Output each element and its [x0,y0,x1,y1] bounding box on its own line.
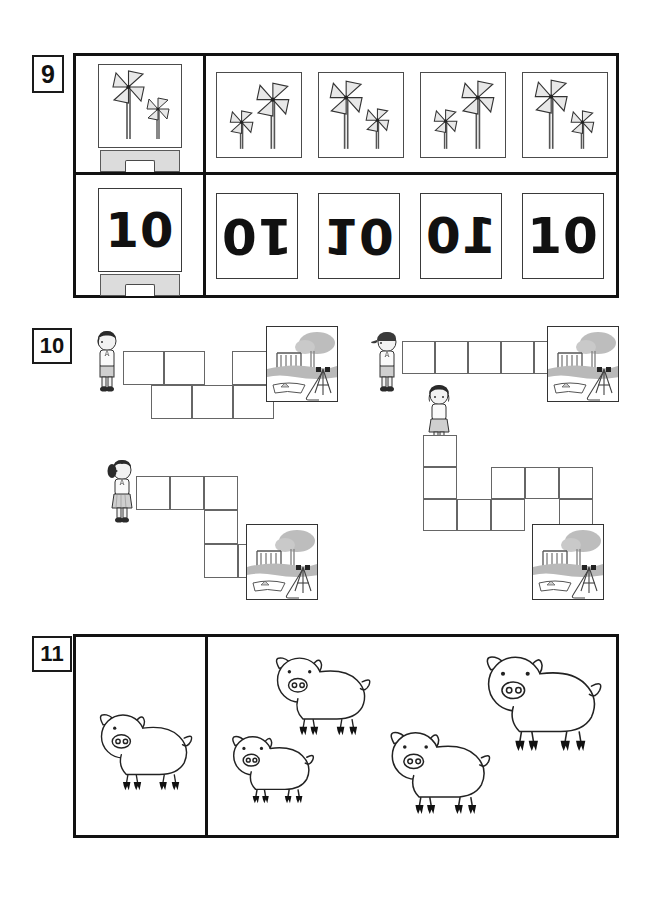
maze-a-cell [192,385,233,419]
playground-scene-icon [247,525,318,600]
exercise-11-number: 11 [32,636,72,672]
ex9-number-prompt-card: 10 [98,188,182,272]
maze-c-cell [204,476,238,510]
playground-thumb-c [246,524,318,600]
playground-scene-icon [533,525,604,600]
maze-d-cell [423,467,457,499]
maze-d-cell [491,499,525,531]
ex9-number-option-4-glyph: 10 [527,211,599,261]
maze-a-cell [151,385,192,419]
maze-b-cell [402,341,435,374]
maze-d-cell [457,499,491,531]
pig-option-4[interactable] [378,722,494,815]
maze-c-cell [204,544,238,578]
exercise-10-number: 10 [32,328,72,364]
ex9-pinwheel-prompt-card [98,64,182,148]
maze-c-cell [204,510,238,544]
exercise-9-number: 9 [32,55,64,93]
ex9-number-option-3[interactable]: 10 [420,193,502,279]
pinwheel-pair-option-3-icon [421,73,503,155]
pinwheel-pair-option-1-icon [217,73,299,155]
maze-d-cell [559,467,593,499]
pinwheel-pair-reference-icon [99,65,179,145]
maze-d-cell [491,467,525,499]
playground-thumb-d [532,524,604,600]
child-figure-boy-plain [92,330,122,392]
ex9-pinwheel-option-2[interactable] [318,72,404,158]
ex9-number-option-3-glyph: 10 [425,211,497,261]
exercise-11-divider [205,634,208,838]
child-figure-girl-ponytail [106,458,136,524]
playground-thumb-b [547,326,619,402]
exercise-10-number-text: 10 [40,335,64,357]
pig-option-1[interactable] [264,648,374,736]
ex9-number-prompt-stand-foot [125,284,155,296]
maze-d-cell [525,467,559,499]
maze-b-cell [435,341,468,374]
playground-thumb-a [266,326,338,402]
maze-b-cell [501,341,534,374]
maze-d-cell [423,435,457,467]
pig-option-3[interactable] [222,728,317,804]
maze-a-cell [164,351,205,385]
maze-c-cell [136,476,170,510]
ex9-number-option-1-glyph: 10 [221,211,293,261]
ex9-number-option-4[interactable]: 10 [522,193,604,279]
exercise-9-row-divider [73,172,619,175]
playground-scene-icon [548,327,619,402]
child-figure-boy-with-cap [372,330,402,392]
maze-a-cell [123,351,164,385]
ex9-number-option-2-glyph: 10 [323,211,395,261]
ex9-pinwheel-prompt-stand-foot [125,160,155,172]
ex9-number-option-1[interactable]: 10 [216,193,298,279]
maze-c-cell [170,476,204,510]
pinwheel-pair-option-2-icon [319,73,401,155]
exercise-11-number-text: 11 [40,643,63,665]
exercise-9-column-divider [203,53,206,298]
ex9-pinwheel-option-1[interactable] [216,72,302,158]
pinwheel-pair-option-4-icon [523,73,605,155]
pig-reference [88,705,196,791]
ex9-pinwheel-option-3[interactable] [420,72,506,158]
maze-b-cell [468,341,501,374]
ex9-pinwheel-option-4[interactable] [522,72,608,158]
maze-d-cell [423,499,457,531]
playground-scene-icon [267,327,338,402]
ex9-number-option-2[interactable]: 10 [318,193,400,279]
exercise-9-number-text: 9 [41,62,55,87]
ex9-number-prompt-glyph: 10 [106,206,175,254]
